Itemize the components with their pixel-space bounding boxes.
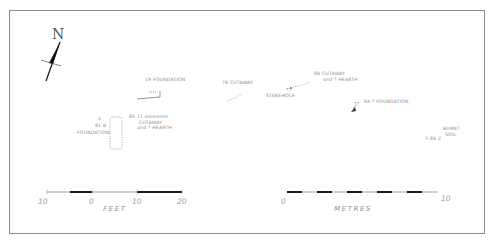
- feature-80-text-2: and ? HEARTH: [323, 77, 358, 82]
- feature-84-text-1: BURNT: [443, 126, 460, 131]
- feature-85-label: 85 11 elements CUTAWAY and ? HEARTH: [129, 114, 172, 131]
- site-plan-drawing: [0, 0, 496, 247]
- feature-81b-foundation-outline: [110, 117, 122, 149]
- feet-tick-10: 10: [132, 197, 142, 206]
- feature-80-text-1: CUTAWAY: [322, 71, 345, 76]
- metres-tick-10: 10: [441, 194, 451, 203]
- feature-64-text: ? FOUNDATION: [372, 99, 409, 104]
- north-label: N: [52, 26, 64, 42]
- map-frame: [10, 11, 485, 234]
- feature-76-cutaway-outline: [227, 94, 242, 101]
- metres-unit-label: METRES: [334, 205, 372, 213]
- feature-64-number: 64: [364, 99, 370, 104]
- feet-tick-10-left: 10: [38, 197, 48, 206]
- stakehole-number: 77: [286, 87, 292, 93]
- north-arrow-icon: [41, 42, 61, 81]
- feature-84-text: BURNT SOIL: [443, 126, 460, 137]
- feature-19-label: 19 FOUNDATION: [145, 77, 185, 83]
- metres-scale-bar: [287, 191, 438, 193]
- feet-tick-20: 20: [177, 197, 187, 206]
- feature-85-text-2: CUTAWAY: [139, 120, 162, 125]
- feature-81-number: 81 B: [95, 123, 106, 129]
- feature-76-number: 76: [222, 80, 228, 85]
- feature-80-number: 80: [314, 71, 320, 76]
- feature-85-text-1: 11 elements: [137, 114, 168, 119]
- feature-19-foundation-outline: [137, 91, 160, 99]
- feature-19-number: 19: [145, 77, 151, 82]
- feature-19-text: FOUNDATION: [153, 77, 186, 82]
- feature-76-text: CUTAWAY: [230, 80, 253, 85]
- feet-scale-bar: [47, 190, 182, 195]
- feature-80-label: 80 CUTAWAY and ? HEARTH: [314, 71, 358, 82]
- feature-64-point-label: 77: [354, 101, 360, 107]
- feature-80-cutaway-outline: [293, 82, 310, 87]
- feature-81-text: FOUNDATION: [77, 130, 110, 136]
- feature-85-number: 85: [129, 114, 135, 119]
- feature-76-label: 76 CUTAWAY: [222, 80, 253, 86]
- feature-84-text-2: SOIL: [445, 132, 456, 137]
- feature-84-burnt-soil-area: [425, 136, 429, 140]
- feature-64-label: 64 ? FOUNDATION: [364, 99, 409, 105]
- feet-unit-label: FEET: [103, 205, 127, 213]
- feature-85-text-3: and ? HEARTH: [137, 125, 172, 130]
- feet-tick-0: 0: [89, 197, 94, 206]
- feature-81-marker: A: [98, 116, 101, 122]
- stakehole-label: STAKEHOLE: [266, 93, 295, 99]
- metres-tick-0: 0: [281, 197, 286, 206]
- feature-84-number: 84 Z: [430, 136, 441, 142]
